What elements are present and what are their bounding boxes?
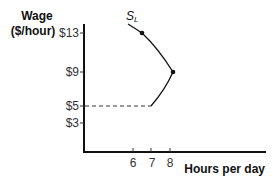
curve-label: SL bbox=[126, 9, 138, 24]
x-tick-label: 6 bbox=[130, 156, 137, 170]
x-axis-title: Hours per day bbox=[184, 162, 265, 176]
x-tick-label: 7 bbox=[149, 156, 156, 170]
point-13-dollars bbox=[140, 31, 145, 36]
supply-curve bbox=[128, 24, 173, 106]
y-tick-label: $13 bbox=[59, 26, 79, 40]
point-9-dollars bbox=[171, 70, 176, 75]
y-tick-label: $9 bbox=[66, 65, 80, 79]
y-ticks: $13 $9 $5 $3 bbox=[59, 26, 84, 130]
y-tick-label: $5 bbox=[66, 99, 80, 113]
y-axis-title-line2: ($/hour) bbox=[11, 24, 56, 38]
y-axis-title-line1: Wage bbox=[21, 9, 53, 23]
x-tick-label: 8 bbox=[167, 156, 174, 170]
labor-supply-chart: $13 $9 $5 $3 6 7 8 Wage ($/hour) Hours p… bbox=[0, 0, 273, 177]
y-tick-label: $3 bbox=[66, 116, 80, 130]
